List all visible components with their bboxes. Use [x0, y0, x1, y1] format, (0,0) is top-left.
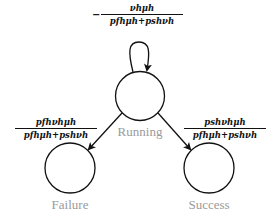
state-success-label: Success — [179, 197, 239, 213]
diagram-canvas — [0, 0, 277, 220]
failure-rate-label: pfhνhμh pfhμh+pshνh — [15, 118, 97, 139]
self-loop-rate-denominator: pfhμh+pshνh — [110, 15, 174, 26]
success-rate-numerator: pshνhμh — [202, 118, 247, 128]
self-loop-arrow — [130, 42, 149, 72]
self-loop-rate-label: νhμh pfhμh+pshνh — [101, 4, 183, 25]
failure-rate-numerator: pfhνhμh — [34, 118, 78, 128]
state-running-circle — [116, 72, 165, 121]
success-rate-label: pshνhμh pfhμh+pshνh — [184, 118, 266, 139]
failure-rate-denominator: pfhμh+pshνh — [24, 129, 88, 140]
state-running-label: Running — [110, 124, 170, 140]
state-failure-circle — [45, 143, 95, 193]
self-loop-rate-numerator: νhμh — [128, 4, 156, 14]
state-failure-label: Failure — [40, 197, 100, 213]
state-success-circle — [184, 143, 234, 193]
success-rate-denominator: pfhμh+pshνh — [193, 129, 257, 140]
self-loop-rate-sign: − — [92, 9, 100, 20]
